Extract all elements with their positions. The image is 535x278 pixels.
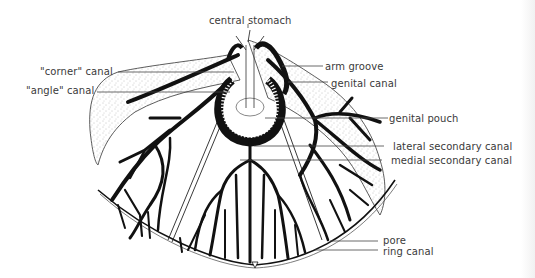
label-corner-canal: "corner" canal	[40, 66, 113, 78]
label-angle-canal: "angle" canal	[26, 85, 94, 97]
label-genital-canal: genital canal	[331, 78, 397, 90]
label-lateral-secondary-canal: lateral secondary canal	[393, 141, 512, 153]
diagram-drawing	[0, 0, 535, 278]
canal-system-diagram: central stomach "corner" canal "angle" c…	[0, 0, 535, 278]
label-genital-pouch: genital pouch	[389, 113, 459, 125]
label-arm-groove: arm groove	[325, 61, 384, 73]
label-medial-secondary-canal: medial secondary canal	[391, 155, 512, 167]
ring-canal-outline	[98, 180, 395, 265]
label-ring-canal: ring canal	[383, 246, 434, 258]
page-edge-shadow	[521, 0, 535, 278]
label-central-stomach: central stomach	[209, 15, 292, 27]
